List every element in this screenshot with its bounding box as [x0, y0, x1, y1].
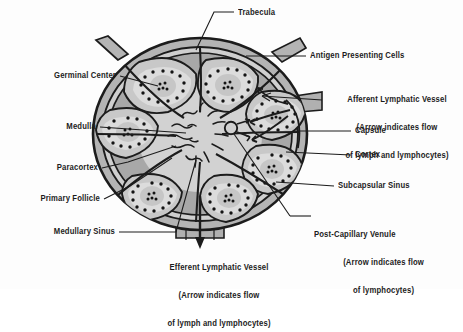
label-trabecula: Trabecula — [238, 8, 275, 17]
efferent-line-1: Efferent Lymphatic Vessel — [144, 263, 294, 272]
label-efferent-lymphatic-vessel: Efferent Lymphatic Vessel (Arrow indicat… — [144, 244, 294, 332]
pcv-line-1: Post-Capillary Venule — [314, 230, 453, 239]
label-post-capillary-venule: Post-Capillary Venule (Arrow indicates f… — [314, 211, 453, 305]
pcv-line-3: of lymphocytes) — [314, 286, 453, 295]
label-medulla: Medulla — [21, 122, 96, 131]
efferent-line-2: (Arrow indicates flow — [144, 291, 294, 300]
label-cortex: Cortex — [355, 150, 380, 159]
label-paracortex: Paracortex — [23, 163, 98, 172]
efferent-line-3: of lymph and lymphocytes) — [144, 319, 294, 328]
label-primary-follicle: Primary Follicle — [15, 194, 100, 203]
afferent-line-2: (Arrow indicates flow — [331, 123, 463, 132]
label-subcapsular-sinus: Subcapsular Sinus — [338, 181, 410, 190]
pcv-line-2: (Arrow indicates flow — [314, 258, 453, 267]
afferent-line-3: of lymph and lymphocytes) — [331, 151, 463, 160]
label-capsule: Capsule — [355, 126, 386, 135]
label-afferent-lymphatic-vessel: Afferent Lymphatic Vessel (Arrow indicat… — [331, 76, 463, 170]
label-medullary-sinus: Medullary Sinus — [30, 227, 115, 236]
label-antigen-presenting-cells: Antigen Presenting Cells — [310, 51, 404, 60]
label-germinal-center: Germinal Center — [22, 71, 116, 80]
afferent-line-1: Afferent Lymphatic Vessel — [331, 95, 463, 104]
